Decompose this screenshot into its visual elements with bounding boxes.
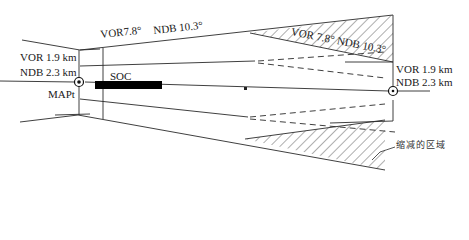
left-vor-width-label: VOR 1.9 km — [20, 52, 77, 63]
right-ndb-width-label: NDB 2.3 km — [396, 77, 453, 88]
mapt-label: MAPt — [48, 89, 75, 100]
soc-bar — [95, 81, 162, 89]
mapt-navaid-icon — [75, 78, 84, 87]
soc-label: SOC — [110, 71, 131, 82]
lower-reduced-area-hatch — [245, 120, 385, 170]
reduced-area-label: 缩减的区域 — [396, 141, 446, 150]
track-direction-arrow — [244, 87, 247, 90]
right-vor-width-label: VOR 1.9 km — [396, 64, 453, 75]
left-ndb-width-label: NDB 2.3 km — [20, 67, 77, 78]
